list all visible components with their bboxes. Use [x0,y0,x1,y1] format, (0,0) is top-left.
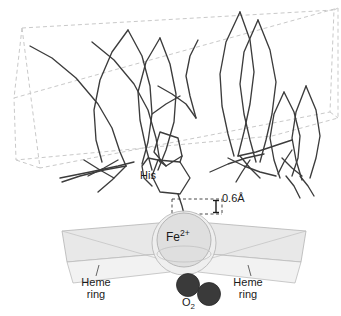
heme-oxygen-binding-diagram [0,0,341,316]
heme-right-line2: ring [239,288,257,300]
distance-label: 0.6Å [222,193,245,205]
dashed-box-edge-left [14,28,22,98]
dashed-box-front-face [22,10,334,168]
fe-ion-symbol: Fe [166,230,180,244]
backbone-strand-1 [30,46,126,166]
o2-subscript: 2 [191,302,195,311]
protein-backbone-trace [30,12,320,198]
heme-left-line1: Heme [81,276,110,288]
backbone-strand-24 [228,158,276,176]
dashed-box-edge-left-bottom [16,160,40,168]
backbone-strand-13 [158,86,196,118]
backbone-strand-29 [278,150,292,174]
fe-ion-charge: 2+ [180,228,190,238]
oxygen-atom-2 [198,283,221,306]
backbone-strand-26 [240,156,260,178]
histidine-ring-lower [152,160,190,194]
backbone-strand-9 [94,30,128,162]
backbone-strand-3 [62,166,126,182]
dashed-bounding-box [14,8,338,168]
heme-ring-label-left: Hemering [72,277,120,300]
oxygen-atom-1 [177,274,200,297]
oxygen-molecule-label: O2 [182,297,195,312]
backbone-strand-31 [286,176,300,198]
backbone-strand-22 [306,86,320,178]
heme-right-line1: Heme [233,276,262,288]
backbone-strand-18 [240,20,258,162]
fe-ion-label: Fe2+ [166,229,190,244]
backbone-strand-30 [300,176,314,196]
dashed-box-edge-right-bottom [330,112,338,118]
his-label: His [140,170,156,182]
backbone-strand-8 [128,30,152,164]
heme-ring-label-right: Hemering [224,277,272,300]
o2-symbol: O [182,296,191,308]
backbone-strand-17 [258,20,276,162]
backbone-strand-16 [220,12,240,156]
heme-left-line2: ring [87,288,105,300]
